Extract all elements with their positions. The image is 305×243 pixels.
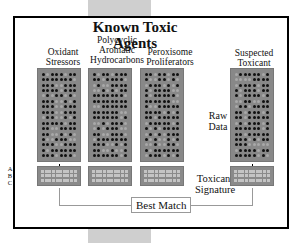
raw-data-array-oxidant [37, 68, 81, 162]
diagram-frame: Known Toxic Agents Oxidant Stressors Pol… [13, 16, 289, 229]
connector-right [252, 188, 253, 206]
label-oxidant-stressors: Oxidant Stressors [39, 48, 87, 68]
row-label-a: A [7, 165, 13, 172]
row-label-c: C [7, 179, 13, 186]
best-match-box: Best Match [131, 197, 191, 213]
decorative-bar-bottom [88, 229, 151, 243]
label-toxicant-signature: Toxicant Signature [195, 173, 235, 195]
label-raw-data: Raw Data [203, 111, 233, 132]
label-polycyclic-aromatic-hydrocarbons: Polycyclic Aromatic Hydrocarbons [87, 36, 147, 66]
raw-data-array-suspected [230, 68, 274, 162]
row-labels: A B C [7, 165, 13, 186]
label-peroxisome-proliferators: Peroxisome Proliferators [140, 48, 200, 68]
raw-data-array-pah [88, 68, 132, 162]
connector-left [59, 188, 60, 206]
raw-data-array-peroxisome [140, 68, 184, 162]
signature-suspected [230, 166, 274, 186]
signature-pah [88, 166, 132, 186]
label-suspected-toxicant: Suspected Toxicant [230, 49, 278, 69]
decorative-bar-top [88, 0, 151, 16]
signature-peroxisome [140, 166, 184, 186]
signature-oxidant [37, 166, 81, 186]
row-label-b: B [7, 172, 13, 179]
